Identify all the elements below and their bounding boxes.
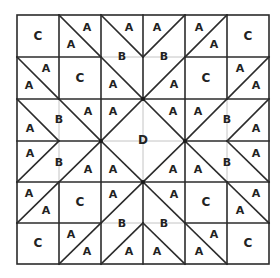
piece-label-a: A <box>109 78 118 91</box>
piece-label-a: A <box>252 79 261 92</box>
piece-label-a: A <box>109 163 118 176</box>
piece-label-a: A <box>42 204 51 217</box>
piece-label-a: A <box>67 228 76 241</box>
piece-label-a: A <box>194 105 203 118</box>
piece-label-a: A <box>169 163 178 176</box>
piece-label-c: C <box>202 195 211 209</box>
piece-label-c: C <box>244 236 253 250</box>
piece-label-b: B <box>160 50 168 63</box>
piece-label-a: A <box>67 38 76 51</box>
piece-label-b: B <box>55 113 63 126</box>
piece-label-a: A <box>125 245 134 258</box>
piece-label-a: A <box>194 163 203 176</box>
piece-label-a: A <box>26 122 35 135</box>
piece-label-c: C <box>76 71 85 85</box>
piece-label-a: A <box>210 38 219 51</box>
piece-label-a: A <box>170 78 179 91</box>
piece-label-d: D <box>138 133 148 147</box>
piece-label-a: A <box>236 204 245 217</box>
piece-label-c: C <box>34 29 43 43</box>
piece-label-a: A <box>252 147 261 160</box>
piece-label-a: A <box>25 79 34 92</box>
piece-label-b: B <box>223 156 231 169</box>
piece-label-c: C <box>76 195 85 209</box>
piece-label-a: A <box>25 187 34 200</box>
piece-label-c: C <box>202 71 211 85</box>
piece-label-b: B <box>160 217 168 230</box>
quilt-diagram: CAAABABAACAACAACAAABAAAABAABAAAABAAACAAC… <box>0 0 280 278</box>
piece-label-c: C <box>34 236 43 250</box>
piece-label-a: A <box>83 21 92 34</box>
piece-label-b: B <box>55 156 63 169</box>
piece-label-c: C <box>244 29 253 43</box>
piece-label-a: A <box>169 105 178 118</box>
piece-label-a: A <box>109 105 118 118</box>
piece-label-a: A <box>125 21 134 34</box>
piece-label-a: A <box>195 245 204 258</box>
piece-label-a: A <box>26 147 35 160</box>
piece-label-b: B <box>223 113 231 126</box>
piece-label-a: A <box>84 163 93 176</box>
piece-label-a: A <box>83 245 92 258</box>
piece-label-a: A <box>42 62 51 75</box>
piece-label-a: A <box>210 228 219 241</box>
piece-label-b: B <box>118 50 126 63</box>
piece-label-a: A <box>170 188 179 201</box>
piece-label-a: A <box>236 62 245 75</box>
piece-label-a: A <box>195 21 204 34</box>
piece-label-a: A <box>252 187 261 200</box>
piece-label-a: A <box>153 21 162 34</box>
piece-label-a: A <box>84 105 93 118</box>
piece-label-a: A <box>153 245 162 258</box>
piece-label-a: A <box>109 188 118 201</box>
piece-label-b: B <box>118 217 126 230</box>
piece-label-a: A <box>252 122 261 135</box>
